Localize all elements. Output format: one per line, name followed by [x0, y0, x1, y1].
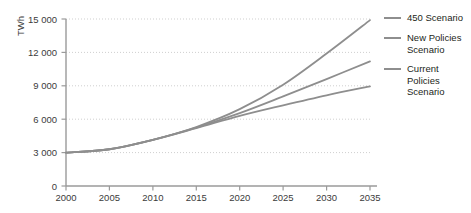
series-line-new-policies-scenario	[66, 61, 370, 152]
legend-item-new-policies-scenario[interactable]: New Policies Scenario	[384, 32, 461, 55]
line-chart: 15 000 12 000 9 000 6 000 3 000 0 TWh 20…	[0, 0, 471, 213]
legend-item-current-policies-scenario[interactable]: Current Policies Scenario	[384, 63, 471, 98]
y-tick-label-15000: 15 000	[28, 14, 57, 25]
legend-item-450-scenario[interactable]: 450 Scenario	[384, 12, 463, 24]
legend-label-450-scenario: 450 Scenario	[407, 12, 463, 24]
x-tick-label-2015: 2015	[186, 192, 207, 203]
y-tick-label-12000: 12 000	[28, 47, 57, 58]
gridlines	[66, 19, 370, 153]
data-series-group	[66, 20, 370, 152]
x-tick-label-2010: 2010	[142, 192, 163, 203]
y-tick-label-6000: 6 000	[33, 114, 57, 125]
y-tick-label-3000: 3 000	[33, 147, 57, 158]
x-tick-labels: 2000 2005 2010 2015 2020 2025 2030 2035	[55, 192, 380, 203]
legend-label-current-policies-scenario: Current Policies Scenario	[407, 63, 471, 98]
x-tick-label-2025: 2025	[273, 192, 294, 203]
y-tick-label-9000: 9 000	[33, 80, 57, 91]
legend-label-new-policies-scenario: New Policies Scenario	[407, 32, 461, 55]
y-axis-title: TWh	[15, 16, 26, 36]
legend-swatch-new-policies-scenario	[384, 37, 401, 39]
y-tick-label-0: 0	[52, 181, 57, 192]
x-tick-label-2035: 2035	[359, 192, 380, 203]
series-line-450-scenario	[66, 20, 370, 152]
legend-swatch-current-policies-scenario	[384, 68, 401, 70]
x-tick-label-2030: 2030	[316, 192, 337, 203]
y-tick-labels: 15 000 12 000 9 000 6 000 3 000 0	[28, 14, 57, 192]
x-axis	[66, 186, 377, 191]
x-tick-label-2020: 2020	[229, 192, 250, 203]
x-tick-label-2005: 2005	[99, 192, 120, 203]
x-tick-label-2000: 2000	[55, 192, 76, 203]
y-axis	[62, 19, 67, 186]
legend-swatch-450-scenario	[384, 17, 401, 19]
